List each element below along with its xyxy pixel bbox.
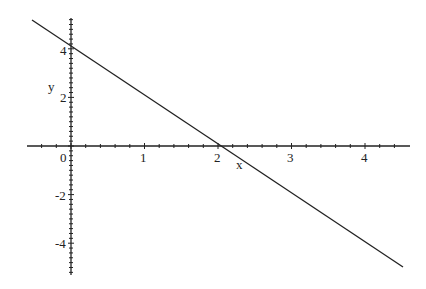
- x-axis-label: x: [236, 157, 243, 172]
- y-tick-label-neg2: -2: [55, 188, 66, 203]
- plot-area: 0 1 2 3 4 x 4 2 -2 -4 y: [0, 0, 426, 289]
- x-tick-label-2: 2: [214, 150, 221, 165]
- y-tick-label-4: 4: [60, 43, 67, 58]
- y-axis-label: y: [48, 79, 55, 94]
- y-tick-label-neg4: -4: [55, 236, 66, 251]
- x-tick-label-1: 1: [140, 150, 147, 165]
- x-tick-label-3: 3: [287, 150, 294, 165]
- x-tick-label-0: 0: [60, 150, 67, 165]
- data-line: [32, 20, 403, 267]
- x-tick-label-4: 4: [361, 150, 368, 165]
- y-tick-label-2: 2: [60, 90, 67, 105]
